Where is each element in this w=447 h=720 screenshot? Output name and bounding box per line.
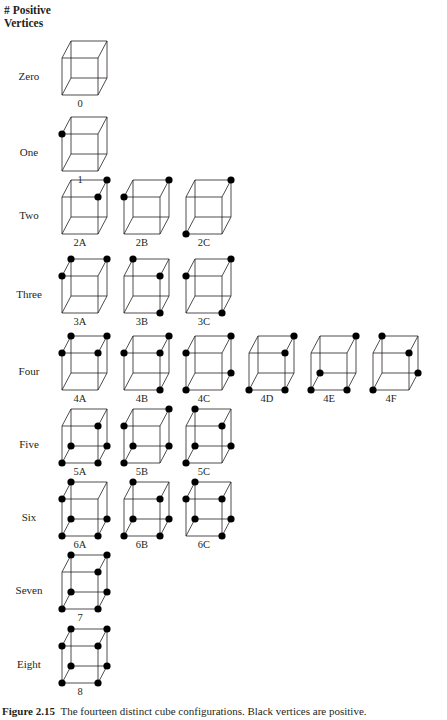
cube-label: 5A — [74, 466, 87, 477]
cube-edge — [124, 217, 133, 234]
positive-vertex-dot — [281, 349, 288, 356]
cube-label: 4F — [385, 393, 396, 404]
positive-vertex-dot — [94, 679, 101, 686]
cube-label: 3A — [74, 316, 87, 327]
cube-2a: 2A — [62, 176, 111, 248]
cube-edge — [98, 117, 107, 134]
cube-edge — [62, 409, 71, 426]
cube-label: 5B — [136, 466, 148, 477]
cube-label: 4D — [261, 393, 274, 404]
cube-edge — [62, 78, 71, 95]
positive-vertex-dot — [67, 332, 74, 339]
positive-vertex-dot — [414, 369, 421, 376]
positive-vertex-dot — [94, 422, 101, 429]
positive-vertex-dot — [94, 568, 101, 575]
positive-vertex-dot — [58, 459, 65, 466]
positive-vertex-dot — [58, 130, 65, 137]
positive-vertex-dot — [191, 515, 198, 522]
positive-vertex-dot — [343, 386, 350, 393]
cube-edge — [98, 217, 107, 234]
positive-vertex-dot — [103, 255, 110, 262]
positive-vertex-dot — [156, 532, 163, 539]
positive-vertex-dot — [94, 605, 101, 612]
cube-6b: 6B — [120, 478, 172, 550]
positive-vertex-dot — [227, 176, 234, 183]
positive-vertex-dot — [218, 495, 225, 502]
positive-vertex-dot — [165, 442, 172, 449]
positive-vertex-dot — [369, 386, 376, 393]
positive-vertex-dot — [165, 515, 172, 522]
positive-vertex-dot — [58, 679, 65, 686]
cube-label: 4A — [74, 393, 87, 404]
positive-vertex-dot — [58, 532, 65, 539]
positive-vertex-dot — [156, 495, 163, 502]
positive-vertex-dot — [58, 495, 65, 502]
cube-edge — [186, 296, 195, 313]
cube-label: 4B — [136, 393, 148, 404]
cube-label: 2A — [74, 237, 87, 248]
positive-vertex-dot — [120, 459, 127, 466]
cube-8: 8 — [58, 625, 110, 697]
positive-vertex-dot — [58, 605, 65, 612]
positive-vertex-dot — [67, 478, 74, 485]
cube-label: 3C — [198, 316, 210, 327]
cube-edge — [98, 373, 107, 390]
positive-vertex-dot — [165, 405, 172, 412]
cube-edge — [222, 217, 231, 234]
cube-label: 3B — [136, 316, 148, 327]
cube-edge — [62, 41, 71, 58]
positive-vertex-dot — [218, 309, 225, 316]
positive-vertex-dot — [129, 515, 136, 522]
positive-vertex-dot — [405, 349, 412, 356]
positive-vertex-dot — [182, 459, 189, 466]
positive-vertex-dot — [245, 386, 252, 393]
figure-caption-text: The fourteen distinct cube configuration… — [60, 705, 366, 717]
cube-edge — [62, 373, 71, 390]
positive-vertex-dot — [103, 442, 110, 449]
positive-vertex-dot — [281, 386, 288, 393]
cube-edge — [311, 336, 320, 353]
cube-edge — [124, 373, 133, 390]
positive-vertex-dot — [290, 332, 297, 339]
positive-vertex-dot — [182, 272, 189, 279]
cube-edge — [98, 482, 107, 499]
positive-vertex-dot — [227, 369, 234, 376]
positive-vertex-dot — [120, 349, 127, 356]
positive-vertex-dot — [378, 332, 385, 339]
cube-3c: 3C — [182, 255, 234, 327]
cube-3b: 3B — [124, 255, 169, 327]
positive-vertex-dot — [129, 478, 136, 485]
cube-4d: 4D — [245, 332, 297, 404]
positive-vertex-dot — [103, 588, 110, 595]
cube-2b: 2B — [120, 176, 172, 248]
cube-edge — [249, 336, 258, 353]
positive-vertex-dot — [191, 405, 198, 412]
positive-vertex-dot — [156, 349, 163, 356]
positive-vertex-dot — [94, 642, 101, 649]
cube-edge — [98, 41, 107, 58]
positive-vertex-dot — [58, 272, 65, 279]
cube-label: 4C — [198, 393, 210, 404]
cube-label: 7 — [77, 612, 82, 623]
positive-vertex-dot — [67, 515, 74, 522]
positive-vertex-dot — [316, 369, 323, 376]
positive-vertex-dot — [182, 230, 189, 237]
positive-vertex-dot — [120, 532, 127, 539]
cube-label: 4E — [323, 393, 335, 404]
positive-vertex-dot — [103, 332, 110, 339]
positive-vertex-dot — [129, 255, 136, 262]
positive-vertex-dot — [129, 442, 136, 449]
cube-5a: 5A — [58, 409, 110, 477]
cube-5b: 5B — [120, 405, 172, 477]
positive-vertex-dot — [120, 193, 127, 200]
cube-3a: 3A — [58, 255, 110, 327]
positive-vertex-dot — [218, 532, 225, 539]
positive-vertex-dot — [103, 662, 110, 669]
positive-vertex-dot — [165, 176, 172, 183]
positive-vertex-dot — [103, 625, 110, 632]
cube-label: 8 — [77, 686, 82, 697]
positive-vertex-dot — [94, 349, 101, 356]
positive-vertex-dot — [227, 332, 234, 339]
positive-vertex-dot — [218, 422, 225, 429]
positive-vertex-dot — [227, 255, 234, 262]
